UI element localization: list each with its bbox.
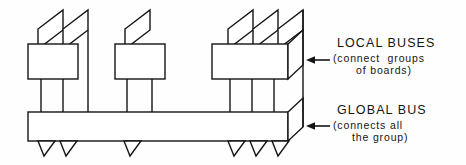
local-bus-box xyxy=(28,44,78,79)
global-bus-caption-line1: (connects all xyxy=(333,119,403,132)
connector-tab xyxy=(272,141,289,156)
global-bus-bar xyxy=(28,112,288,141)
local-bus-box xyxy=(115,44,165,79)
global-bus-caption-line2: the group) xyxy=(352,131,408,144)
board-plate xyxy=(228,10,253,49)
connector-tab xyxy=(124,141,141,156)
local-buses-arrow xyxy=(306,56,330,64)
local-buses-caption-line2: of boards) xyxy=(356,64,412,77)
connector-tab xyxy=(228,141,245,156)
board-group-1 xyxy=(38,10,88,49)
global-bus-arrow xyxy=(306,122,330,130)
connector-tab xyxy=(60,141,77,156)
board-plate xyxy=(125,10,150,49)
bus-architecture-diagram: LOCAL BUSES (connect groups of boards) G… xyxy=(0,0,466,165)
local-bus-box xyxy=(212,44,288,79)
board-group-2 xyxy=(125,10,150,49)
connector-tab xyxy=(250,141,267,156)
board-plate xyxy=(63,10,88,49)
global-bus-title: GLOBAL BUS xyxy=(337,103,427,117)
board-plate xyxy=(38,10,63,49)
global-bus-depth-face xyxy=(288,98,303,141)
local-buses-caption-line1: (connect groups xyxy=(333,52,425,65)
connector-tab xyxy=(38,141,55,156)
board-plate xyxy=(253,10,278,49)
local-buses-title: LOCAL BUSES xyxy=(337,36,435,50)
